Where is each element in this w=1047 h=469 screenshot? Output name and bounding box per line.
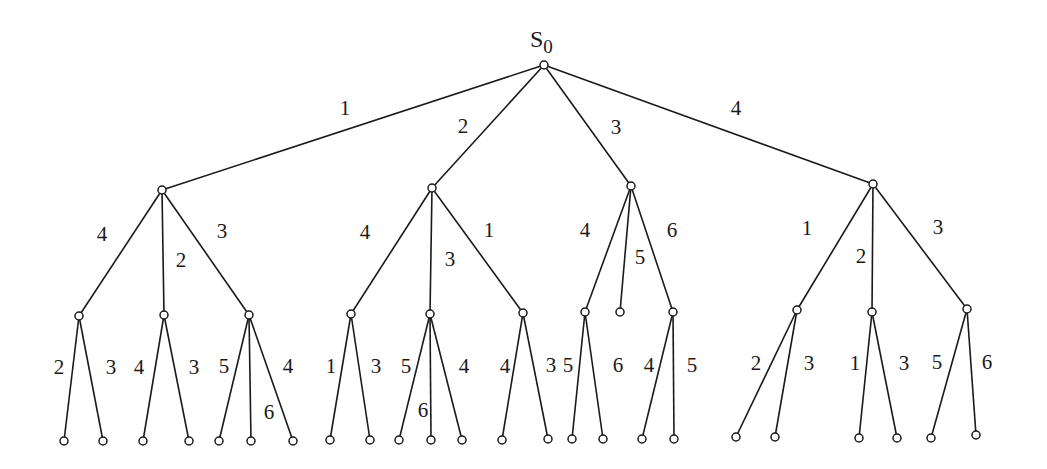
tree-edge — [430, 188, 432, 314]
tree-edge — [585, 186, 631, 312]
tree-node — [215, 437, 223, 445]
edge-label: 3 — [106, 355, 117, 379]
tree-node — [963, 305, 971, 313]
edges-layer — [64, 65, 976, 441]
tree-node — [139, 437, 147, 445]
edge-label: 4 — [283, 354, 294, 378]
edge-label: 5 — [932, 350, 943, 374]
tree-edge — [351, 314, 370, 440]
tree-edge — [967, 309, 976, 435]
tree-node — [347, 310, 355, 318]
edge-label: 5 — [219, 354, 230, 378]
tree-node — [245, 311, 253, 319]
tree-node — [669, 308, 677, 316]
tree-node — [927, 434, 935, 442]
tree-node — [771, 433, 779, 441]
tree-node — [519, 309, 527, 317]
tree-node — [395, 436, 403, 444]
tree-node — [458, 436, 466, 444]
tree-edge — [859, 312, 872, 438]
tree-node — [972, 431, 980, 439]
tree-edge — [351, 188, 432, 314]
edge-label: 5 — [635, 245, 646, 269]
tree-node — [599, 435, 607, 443]
tree-node — [247, 437, 255, 445]
tree-edge — [249, 315, 251, 441]
tree-edge — [572, 312, 585, 439]
edge-label: 5 — [563, 353, 574, 377]
tree-node — [289, 437, 297, 445]
edge-label: 5 — [687, 353, 698, 377]
edge-label: 4 — [731, 96, 742, 120]
edge-label: 4 — [644, 353, 655, 377]
tree-edge — [79, 316, 103, 441]
edge-label: 3 — [217, 219, 228, 243]
tree-node — [855, 434, 863, 442]
edge-label: 6 — [613, 353, 624, 377]
tree-node — [568, 435, 576, 443]
tree-node — [793, 306, 801, 314]
edge-label: 3 — [804, 351, 815, 375]
edge-label: 3 — [546, 353, 557, 377]
edge-label: 1 — [850, 351, 861, 375]
search-tree-diagram: 1234423431456123234356413564435645231356… — [0, 0, 1047, 469]
tree-node — [893, 434, 901, 442]
edge-label: 3 — [899, 351, 910, 375]
tree-node — [185, 437, 193, 445]
edge-label: 4 — [580, 218, 591, 242]
edge-label: 2 — [751, 351, 762, 375]
edge-label: 2 — [458, 114, 469, 138]
tree-node — [60, 437, 68, 445]
tree-edge — [430, 314, 462, 440]
tree-node — [99, 437, 107, 445]
tree-node — [498, 436, 506, 444]
tree-node — [366, 436, 374, 444]
edge-label: 4 — [360, 220, 371, 244]
tree-node — [428, 184, 436, 192]
edge-label: 6 — [982, 350, 993, 374]
edge-label: 3 — [611, 115, 622, 139]
tree-node — [581, 308, 589, 316]
tree-edge — [164, 315, 189, 441]
edge-label: 3 — [445, 247, 456, 271]
edge-label: 4 — [134, 355, 145, 379]
tree-node — [670, 435, 678, 443]
edge-label: 6 — [264, 400, 275, 424]
edge-label: 4 — [459, 354, 470, 378]
root-node — [540, 61, 548, 69]
edge-label: 6 — [667, 218, 678, 242]
tree-edge — [775, 310, 797, 437]
tree-edge — [872, 312, 897, 438]
tree-edge — [162, 190, 164, 315]
tree-edge — [143, 315, 164, 441]
tree-edge — [430, 314, 431, 440]
tree-edge — [673, 312, 674, 439]
edge-label: 1 — [802, 216, 813, 240]
edge-label: 4 — [500, 354, 511, 378]
tree-edge — [79, 190, 162, 316]
root-label: S0 — [530, 26, 553, 57]
tree-node — [732, 433, 740, 441]
tree-svg: 1234423431456123234356413564435645231356… — [0, 0, 1047, 469]
tree-edge — [219, 315, 249, 441]
root-label-subscript: 0 — [543, 36, 553, 57]
edge-label: 1 — [484, 218, 495, 242]
tree-node — [616, 308, 624, 316]
tree-edge — [736, 310, 797, 437]
edge-label: 4 — [97, 222, 108, 246]
edge-label: 1 — [326, 354, 337, 378]
tree-node — [75, 312, 83, 320]
tree-node — [427, 436, 435, 444]
tree-node — [638, 435, 646, 443]
tree-node — [627, 182, 635, 190]
tree-node — [868, 308, 876, 316]
edge-label: 3 — [371, 354, 382, 378]
tree-node — [160, 311, 168, 319]
tree-edge — [544, 65, 873, 184]
edge-label: 5 — [401, 354, 412, 378]
tree-edge — [523, 313, 548, 439]
tree-edge — [873, 184, 967, 309]
nodes-layer — [60, 61, 980, 445]
tree-node — [544, 435, 552, 443]
tree-node — [158, 186, 166, 194]
